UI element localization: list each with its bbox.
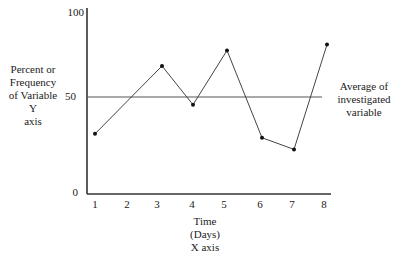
y-label-line: Y [0,102,66,115]
y-label-line: axis [0,115,66,128]
x-tick-2: 2 [121,198,133,211]
avg-label-line: investigated [330,93,398,106]
data-point [93,132,97,136]
x-label-line: X axis [180,241,230,254]
data-point [292,147,296,151]
axes [87,8,331,194]
data-point [325,43,329,47]
y-axis-label: Percent or Frequency of Variable Y axis [0,63,66,128]
y-label-line: Frequency [0,76,66,89]
y-label-line: of Variable [0,89,66,102]
x-tick-1: 1 [89,198,101,211]
avg-label-line: variable [330,106,398,119]
x-label-line: (Days) [180,228,230,241]
x-label-line: Time [180,215,230,228]
x-tick-3: 3 [151,198,163,211]
x-tick-7: 7 [286,198,298,211]
y-tick-100: 100 [60,6,84,19]
x-tick-6: 6 [254,198,266,211]
data-point [191,103,195,107]
data-point [260,136,264,140]
data-point [160,64,164,68]
avg-label-line: Average of [330,80,398,93]
x-tick-8: 8 [318,198,330,211]
x-axis-label: Time (Days) X axis [180,215,230,254]
x-tick-4: 4 [186,198,198,211]
y-tick-0: 0 [60,186,78,199]
y-label-line: Percent or [0,63,66,76]
average-line-label: Average of investigated variable [330,80,398,119]
x-tick-5: 5 [218,198,230,211]
data-point [225,48,229,52]
